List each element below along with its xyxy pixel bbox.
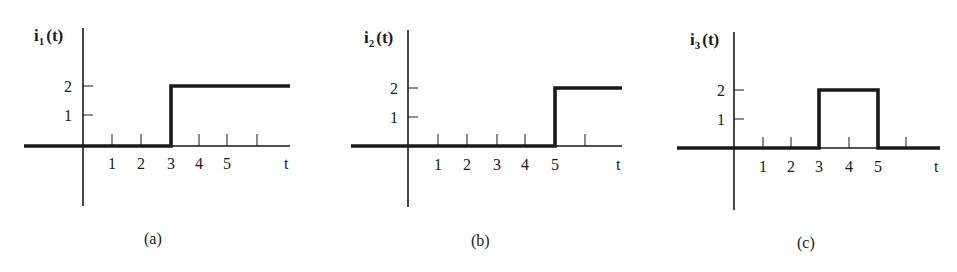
y-tick-label-2: 2 <box>390 80 398 97</box>
figure-canvas: i1(t) 2 1 1 2 3 4 5 t (a) i2(t) 2 1 1 2 … <box>0 0 957 272</box>
y-axis-label: i2(t) <box>364 28 393 49</box>
y-tick-label-1: 1 <box>717 111 725 128</box>
y-axis-label: i1(t) <box>34 26 63 47</box>
x-tick-label-3: 3 <box>815 158 823 175</box>
panel-b: i2(t) 2 1 1 2 3 4 5 t (b) <box>351 28 622 250</box>
panel-a: i1(t) 2 1 1 2 3 4 5 t (a) <box>24 26 290 248</box>
y-axis-label: i3(t) <box>690 30 719 51</box>
y-tick-label-2: 2 <box>64 78 72 95</box>
x-tick-label-4: 4 <box>521 156 529 173</box>
caption: (b) <box>471 232 490 250</box>
x-tick-label-5: 5 <box>551 156 559 173</box>
x-tick-label-1: 1 <box>434 156 442 173</box>
x-tick-label-1: 1 <box>759 158 767 175</box>
x-axis-label: t <box>284 155 289 172</box>
x-tick-label-4: 4 <box>845 158 853 175</box>
y-tick-label-1: 1 <box>390 109 398 126</box>
x-axis-label: t <box>934 158 939 175</box>
x-tick-label-1: 1 <box>108 155 116 172</box>
y-tick-label-1: 1 <box>64 107 72 124</box>
x-tick-label-2: 2 <box>787 158 795 175</box>
panel-c: i3(t) 2 1 1 2 3 4 5 t (c) <box>677 30 940 252</box>
x-tick-label-2: 2 <box>463 156 471 173</box>
x-tick-label-5: 5 <box>223 155 231 172</box>
caption: (a) <box>144 230 162 248</box>
x-tick-label-5: 5 <box>874 158 882 175</box>
caption: (c) <box>797 234 815 252</box>
x-tick-label-4: 4 <box>195 155 203 172</box>
x-tick-label-3: 3 <box>493 156 501 173</box>
x-tick-label-3: 3 <box>167 155 175 172</box>
x-axis-label: t <box>616 156 621 173</box>
y-tick-label-2: 2 <box>717 82 725 99</box>
x-tick-label-2: 2 <box>137 155 145 172</box>
